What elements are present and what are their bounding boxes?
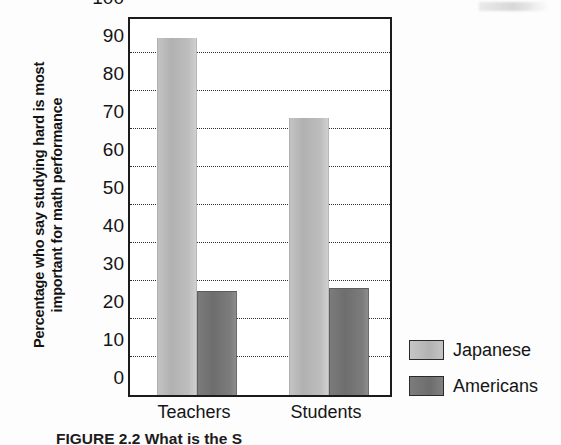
legend-label-japanese: Japanese [453, 340, 531, 360]
legend-item-japanese: Japanese [409, 336, 538, 364]
legend-label-americans: Americans [453, 376, 538, 396]
legend-item-americans: Americans [409, 372, 538, 400]
y-axis-tick-labels: 0102030405060708090100 [76, 17, 124, 397]
figure-container: Percentage who say studying hard is most… [0, 0, 561, 445]
legend-swatch-japanese [409, 340, 444, 360]
bar-students-americans [329, 288, 369, 395]
y-tick-label-70: 70 [80, 102, 124, 121]
y-axis-title-line1: Percentage who say studying hard is most [30, 62, 48, 348]
y-tick-label-50: 50 [80, 178, 124, 197]
y-tick-label-30: 30 [80, 254, 124, 273]
y-tick-label-80: 80 [80, 64, 124, 83]
legend-swatch-americans [409, 376, 444, 396]
y-tick-label-40: 40 [80, 216, 124, 235]
legend: JapaneseAmericans [409, 336, 538, 408]
plot-area [128, 17, 392, 397]
bar-teachers-americans [197, 291, 237, 395]
bar-students-japanese [289, 118, 329, 395]
y-tick-label-100: 100 [80, 0, 124, 7]
figure-caption: FIGURE 2.2 What is the S [56, 430, 536, 445]
bar-teachers-japanese [157, 38, 197, 395]
y-tick-label-10: 10 [80, 330, 124, 349]
y-tick-label-60: 60 [80, 140, 124, 159]
y-tick-label-20: 20 [80, 292, 124, 311]
y-axis-title-line2: important for math performance [48, 62, 66, 348]
x-tick-label-students: Students [256, 402, 396, 422]
y-tick-label-90: 90 [80, 26, 124, 45]
x-tick-label-teachers: Teachers [124, 402, 264, 422]
scan-artifact [479, 2, 549, 11]
y-tick-label-0: 0 [80, 368, 124, 387]
bars-layer [130, 19, 390, 395]
